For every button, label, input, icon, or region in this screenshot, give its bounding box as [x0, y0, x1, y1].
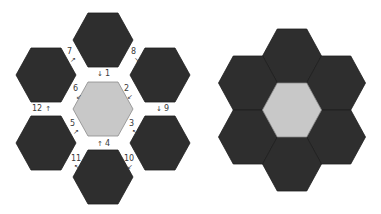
seam-label-3: 3↖ [129, 120, 138, 136]
seam-label-1: ↓1 [97, 70, 110, 78]
seam-number: 9 [164, 104, 169, 113]
seam-number: 8 [131, 47, 136, 56]
seam-number: 1 [105, 69, 110, 78]
exploded-hexagon-top [73, 13, 133, 67]
exploded-hexagon-lower-left [16, 116, 76, 170]
seam-label-11: 11↖ [71, 155, 81, 171]
seam-arrow-icon: ↑ [45, 105, 51, 113]
seam-arrow-icon: ↑ [97, 140, 103, 148]
seam-number: 4 [105, 139, 110, 148]
seam-number: 12 [32, 104, 42, 113]
seam-number: 5 [70, 119, 75, 128]
seam-number: 10 [124, 154, 134, 163]
seam-label-12: 12↑ [32, 105, 51, 113]
seam-number: 2 [124, 84, 129, 93]
seam-arrow-icon: ↙ [127, 163, 133, 171]
seam-number: 11 [71, 154, 81, 163]
seam-arrow-icon: ↙ [127, 93, 133, 101]
seam-label-9: ↓9 [156, 105, 169, 113]
seam-arrow-icon: ↖ [132, 128, 138, 136]
seam-number: 7 [67, 47, 72, 56]
seam-arrow-icon: ↖ [74, 163, 80, 171]
hexagon-diagram-canvas [0, 0, 381, 214]
assembled-hexagon-flower [219, 29, 366, 191]
seam-arrow-icon: ↗ [73, 128, 79, 136]
seam-arrow-icon: ↙ [76, 93, 82, 101]
seam-label-10: 10↙ [124, 155, 134, 171]
seam-number: 3 [129, 119, 134, 128]
seam-label-4: ↑4 [97, 140, 110, 148]
seam-arrow-icon: ↘ [134, 56, 140, 64]
seam-label-7: 7↗ [67, 48, 76, 64]
seam-arrow-icon: ↗ [70, 56, 76, 64]
seam-label-2: 2↙ [124, 85, 133, 101]
seam-arrow-icon: ↓ [97, 70, 103, 78]
seam-label-6: 6↙ [73, 85, 82, 101]
seam-label-5: 5↗ [70, 120, 79, 136]
seam-arrow-icon: ↓ [156, 105, 162, 113]
exploded-hexagon-lower-right [130, 116, 190, 170]
seam-label-8: 8↘ [131, 48, 140, 64]
seam-number: 6 [73, 84, 78, 93]
